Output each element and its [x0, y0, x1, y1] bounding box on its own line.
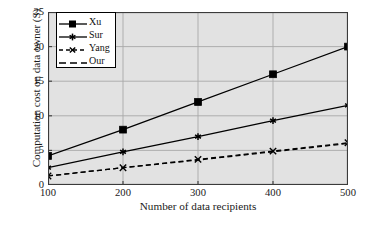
legend-label-our: Our [89, 56, 105, 66]
y-tick-label-10: 10 [22, 110, 44, 121]
legend-entry-sur: Sur [57, 28, 115, 41]
y-tick-label-15: 15 [22, 75, 44, 86]
y-tick-label-5: 5 [22, 144, 44, 155]
legend-box: Xu Sur [56, 12, 116, 68]
legend-entry-xu: Xu [57, 15, 115, 28]
x-tick-label-400: 400 [256, 187, 290, 198]
legend-entry-yang: Yang [57, 41, 115, 54]
chart-figure: Computation cost on data owner (S) Numbe… [0, 0, 371, 226]
y-tick-label-20: 20 [22, 41, 44, 52]
legend-label-yang: Yang [89, 43, 110, 53]
y-axis-title: Computation cost on data owner (S) [30, 0, 42, 188]
legend-label-xu: Xu [89, 17, 101, 27]
legend-sample-yang [57, 42, 89, 54]
legend-sample-our [57, 55, 89, 67]
x-tick-label-500: 500 [331, 187, 365, 198]
legend-label-sur: Sur [89, 30, 103, 40]
y-tick-label-25: 25 [22, 6, 44, 17]
legend-sample-xu [57, 16, 89, 28]
x-tick-label-100: 100 [31, 187, 65, 198]
x-axis-title: Number of data recipients [48, 200, 348, 212]
x-tick-label-300: 300 [181, 187, 215, 198]
legend-entry-our: Our [57, 54, 115, 67]
x-tick-label-200: 200 [106, 187, 140, 198]
legend-sample-sur [57, 29, 89, 41]
